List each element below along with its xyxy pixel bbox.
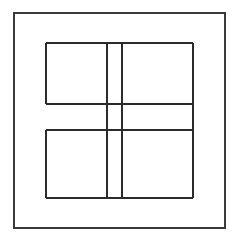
drawing-canvas — [0, 0, 238, 242]
line-drawing-figure — [0, 0, 238, 242]
canvas-background — [0, 0, 238, 242]
